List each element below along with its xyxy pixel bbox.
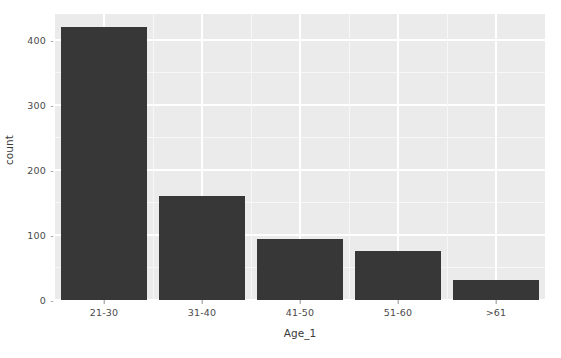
y-tick-mark-icon: - (48, 295, 54, 306)
x-tick-mark-icon (299, 300, 300, 304)
plot-panel (55, 14, 545, 300)
bar-31-40 (159, 196, 245, 300)
y-tick-text: 100 (27, 230, 46, 241)
y-tick-label-300: 300- (27, 100, 54, 111)
bar-51-60 (355, 251, 441, 300)
x-axis-title: Age_1 (55, 327, 545, 339)
y-axis-ticks: 0-100-200-300-400- (16, 0, 54, 358)
gridline-minor-vertical (153, 14, 154, 300)
x-tick-mark-icon (103, 300, 104, 304)
y-tick-label-0: 0- (40, 295, 54, 306)
bar-chart: count 0-100-200-300-400- 21-3031-4041-50… (0, 0, 561, 358)
x-tick-label-21-30: 21-30 (90, 300, 119, 318)
gridline-major-vertical (495, 14, 496, 300)
x-tick-text: 21-30 (90, 307, 119, 318)
gridline-minor-vertical (447, 14, 448, 300)
x-tick-text: 51-60 (384, 307, 413, 318)
x-tick-text: >61 (486, 307, 507, 318)
y-tick-text: 400 (27, 35, 46, 46)
y-tick-text: 0 (40, 295, 46, 306)
y-tick-label-400: 400- (27, 35, 54, 46)
y-axis-title-label: count (3, 135, 15, 165)
x-tick-mark-icon (496, 300, 497, 304)
x-tick-mark-icon (397, 300, 398, 304)
y-axis-title: count (2, 0, 16, 300)
y-tick-mark-icon: - (48, 100, 54, 111)
bar-21-30 (61, 27, 147, 300)
y-tick-label-100: 100- (27, 230, 54, 241)
y-tick-text: 200 (27, 165, 46, 176)
x-axis-ticks: 21-3031-4041-5051-60>61 (55, 300, 545, 322)
x-tick-text: 31-40 (188, 307, 217, 318)
x-tick-label->61: >61 (486, 300, 507, 318)
x-tick-label-31-40: 31-40 (188, 300, 217, 318)
gridline-minor-vertical (251, 14, 252, 300)
x-tick-label-41-50: 41-50 (286, 300, 315, 318)
y-tick-label-200: 200- (27, 165, 54, 176)
y-tick-text: 300 (27, 100, 46, 111)
x-tick-mark-icon (201, 300, 202, 304)
y-tick-mark-icon: - (48, 35, 54, 46)
bar->61 (453, 280, 539, 300)
bar-41-50 (257, 239, 343, 300)
y-tick-mark-icon: - (48, 230, 54, 241)
x-tick-text: 41-50 (286, 307, 315, 318)
x-axis-title-label: Age_1 (284, 327, 317, 339)
y-tick-mark-icon: - (48, 165, 54, 176)
gridline-minor-vertical (349, 14, 350, 300)
x-tick-label-51-60: 51-60 (384, 300, 413, 318)
